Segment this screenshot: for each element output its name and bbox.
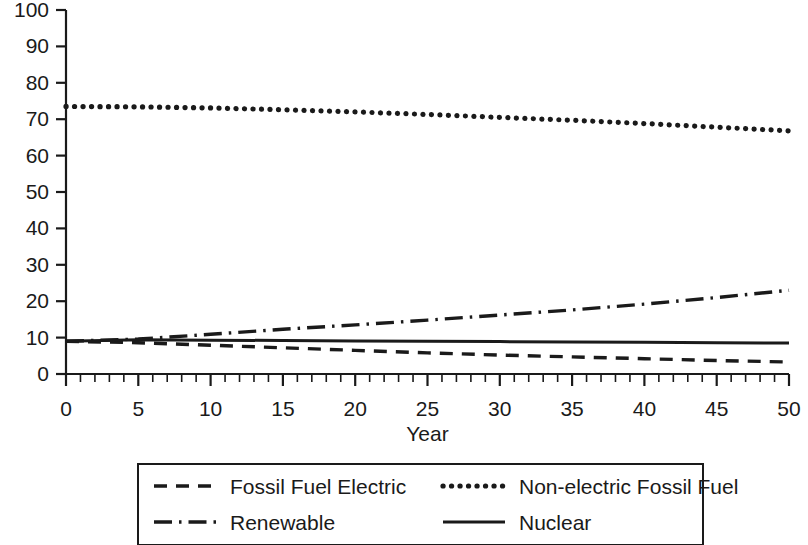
series-line-non-electric-fossil-fuel bbox=[66, 106, 789, 130]
x-axis-tick-label: 45 bbox=[705, 397, 728, 420]
x-axis-title: Year bbox=[406, 422, 448, 445]
x-axis: 05101520253035404550 bbox=[60, 374, 801, 420]
line-chart: 0102030405060708090100 05101520253035404… bbox=[0, 0, 808, 545]
y-axis-tick-label: 80 bbox=[26, 71, 49, 94]
y-axis-tick-label: 0 bbox=[37, 362, 49, 385]
legend-item[interactable]: Non-electric Fossil Fuel bbox=[443, 475, 738, 498]
x-axis-tick-label: 20 bbox=[344, 397, 367, 420]
legend-label: Fossil Fuel Electric bbox=[230, 475, 406, 498]
series-lines bbox=[66, 106, 789, 362]
x-axis-tick-label: 50 bbox=[777, 397, 800, 420]
y-axis-tick-label: 50 bbox=[26, 180, 49, 203]
x-axis-tick-label: 30 bbox=[488, 397, 511, 420]
chart-canvas: 0102030405060708090100 05101520253035404… bbox=[0, 0, 808, 545]
y-axis: 0102030405060708090100 bbox=[14, 0, 66, 385]
legend-item[interactable]: Nuclear bbox=[443, 511, 591, 534]
series-line-renewable bbox=[66, 290, 789, 341]
chart-legend: Fossil Fuel ElectricNon-electric Fossil … bbox=[138, 464, 738, 545]
x-axis-title-label: Year bbox=[406, 422, 448, 445]
y-axis-tick-label: 40 bbox=[26, 216, 49, 239]
y-axis-tick-label: 30 bbox=[26, 253, 49, 276]
x-axis-tick-label: 0 bbox=[60, 397, 72, 420]
y-axis-tick-label: 10 bbox=[26, 326, 49, 349]
y-axis-tick-label: 100 bbox=[14, 0, 49, 21]
series-line-fossil-fuel-electric bbox=[66, 341, 789, 362]
legend-label: Renewable bbox=[230, 511, 335, 534]
y-axis-tick-label: 90 bbox=[26, 34, 49, 57]
x-axis-tick-label: 10 bbox=[199, 397, 222, 420]
x-axis-tick-label: 15 bbox=[271, 397, 294, 420]
series-line-nuclear bbox=[66, 340, 789, 343]
y-axis-tick-label: 70 bbox=[26, 107, 49, 130]
y-axis-tick-label: 60 bbox=[26, 144, 49, 167]
x-axis-tick-label: 5 bbox=[132, 397, 144, 420]
x-axis-tick-label: 35 bbox=[560, 397, 583, 420]
legend-label: Nuclear bbox=[519, 511, 591, 534]
x-axis-tick-label: 25 bbox=[416, 397, 439, 420]
x-axis-tick-label: 40 bbox=[633, 397, 656, 420]
legend-item[interactable]: Renewable bbox=[154, 511, 335, 534]
y-axis-tick-label: 20 bbox=[26, 289, 49, 312]
legend-label: Non-electric Fossil Fuel bbox=[519, 475, 738, 498]
legend-item[interactable]: Fossil Fuel Electric bbox=[154, 475, 406, 498]
